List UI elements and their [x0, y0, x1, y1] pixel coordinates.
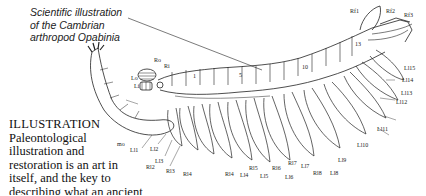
label-ll10: Ll10 — [357, 142, 368, 149]
label-rl7: Rl7 — [288, 160, 297, 167]
label-ll9: Ll9 — [338, 157, 346, 164]
text-line: describing what an ancient — [9, 186, 229, 196]
label-ri: Ri — [164, 63, 170, 70]
label-ll5: Ll5 — [260, 173, 268, 180]
label-ll14: Ll14 — [402, 77, 413, 84]
text-line: Paleontological — [9, 132, 229, 146]
label-ll15: Ll15 — [404, 65, 415, 72]
article-text: ILLUSTRATION Paleontological illustratio… — [9, 118, 229, 195]
label-ll12: Ll12 — [396, 99, 407, 106]
label-ll7: Ll7 — [301, 163, 309, 170]
text-line: restoration is an art in — [9, 159, 229, 173]
label-seg1: 1 — [193, 73, 196, 80]
label-rl6: Rl6 — [272, 165, 281, 172]
label-rl8: Rl8 — [313, 170, 322, 177]
label-seg10: 10 — [302, 64, 308, 71]
label-ll11: Ll11 — [377, 126, 388, 133]
text-line: itself, and the key to — [9, 172, 229, 186]
text-line: illustration and — [9, 145, 229, 159]
label-seg13: 13 — [355, 41, 361, 48]
label-rf3: Rf3 — [404, 12, 413, 19]
label-lo: Lo — [131, 75, 138, 82]
label-ll4: Ll4 — [240, 172, 248, 179]
label-ll13: Ll13 — [401, 90, 412, 97]
label-ro: Ro — [154, 57, 161, 64]
label-ll6: Ll6 — [285, 174, 293, 181]
label-rf1: Rf1 — [350, 8, 359, 15]
label-seg5: 5 — [239, 72, 242, 79]
label-rf2: Rf2 — [386, 8, 395, 15]
label-li: Li — [134, 83, 139, 90]
section-heading: ILLUSTRATION — [9, 118, 229, 132]
label-rl5: Rl5 — [249, 165, 258, 172]
label-ll8: Ll8 — [330, 170, 338, 177]
